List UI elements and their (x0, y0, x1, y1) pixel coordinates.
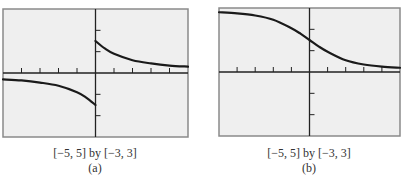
panel-label-b: (b) (209, 161, 405, 176)
caption-a: [−5, 5] by [−3, 3] (a) (0, 146, 195, 176)
graph-panel-b (218, 7, 401, 137)
graph-panel-a (2, 8, 189, 138)
panel-label-a: (a) (0, 161, 195, 176)
caption-b: [−5, 5] by [−3, 3] (b) (209, 146, 405, 176)
window-caption-b: [−5, 5] by [−3, 3] (209, 146, 405, 161)
graph-b-plot (218, 7, 401, 137)
graph-a-plot (2, 8, 189, 138)
window-caption-a: [−5, 5] by [−3, 3] (0, 146, 195, 161)
